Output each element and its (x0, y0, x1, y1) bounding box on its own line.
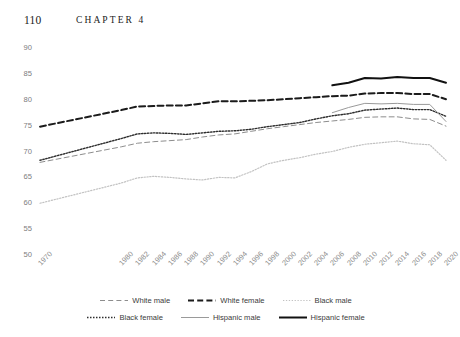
chart-legend: White maleWhite femaleBlack maleBlack fe… (0, 296, 452, 332)
series-line-hispanic-female (332, 77, 446, 85)
series-line-black-female (40, 108, 446, 160)
legend-item-white-female[interactable]: White female (188, 296, 264, 305)
y-tick-label: 85 (6, 69, 32, 78)
y-tick-label: 90 (6, 43, 32, 52)
legend-label-hispanic-female: Hispanic female (311, 313, 365, 322)
y-tick-label: 75 (6, 121, 32, 130)
legend-label-white-female: White female (220, 296, 264, 305)
series-line-white-male (40, 117, 446, 163)
legend-row: White maleWhite femaleBlack male (0, 296, 452, 305)
y-tick-label: 60 (6, 198, 32, 207)
chapter-title: CHAPTER 4 (76, 15, 145, 25)
legend-swatch-white-male-icon (100, 296, 128, 305)
y-tick-label: 55 (6, 224, 32, 233)
y-tick-label: 70 (6, 147, 32, 156)
legend-swatch-black-male-icon (283, 296, 311, 305)
legend-item-black-male[interactable]: Black male (283, 296, 352, 305)
life-expectancy-line-chart: 505560657075808590 197019801982198419861… (0, 40, 452, 292)
legend-item-hispanic-female[interactable]: Hispanic female (279, 313, 365, 322)
legend-row: Black femaleHispanic maleHispanic female (0, 313, 452, 322)
running-head: 110 CHAPTER 4 (0, 14, 452, 30)
legend-swatch-hispanic-male-icon (181, 313, 209, 322)
legend-label-black-male: Black male (315, 296, 352, 305)
page-number: 110 (24, 14, 41, 26)
series-line-hispanic-male (332, 103, 446, 121)
y-tick-label: 50 (6, 250, 32, 259)
legend-item-white-male[interactable]: White male (100, 296, 170, 305)
legend-item-black-female[interactable]: Black female (87, 313, 162, 322)
y-tick-label: 65 (6, 172, 32, 181)
series-line-white-female (40, 93, 446, 127)
legend-label-hispanic-male: Hispanic male (213, 313, 261, 322)
legend-label-white-male: White male (132, 296, 170, 305)
legend-item-hispanic-male[interactable]: Hispanic male (181, 313, 261, 322)
legend-swatch-white-female-icon (188, 296, 216, 305)
legend-swatch-black-female-icon (87, 313, 115, 322)
legend-label-black-female: Black female (119, 313, 162, 322)
legend-swatch-hispanic-female-icon (279, 313, 307, 322)
y-tick-label: 80 (6, 95, 32, 104)
